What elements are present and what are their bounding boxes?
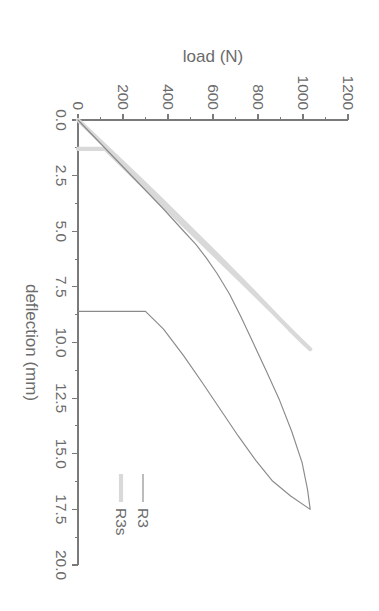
deflection-tick-label: 20.0 [53,550,70,581]
load-tick-label: 1000 [295,76,312,111]
deflection-tick-label: 7.5 [53,276,70,298]
legend-item-r3[interactable]: R3 [135,474,152,528]
legend-item-r3s[interactable]: R3s [113,474,130,536]
load-tick-label: 400 [160,84,177,110]
legend-label-r3: R3 [135,508,152,528]
rotated-figure-wrapper: 0200400600800100012000.02.55.07.510.012.… [0,0,379,611]
deflection-tick-label: 15.0 [53,439,70,470]
load-tick-label: 600 [205,84,222,110]
deflection-tick-label: 10.0 [53,327,70,358]
deflection-tick-label: 5.0 [53,220,70,242]
legend-label-r3s: R3s [113,508,130,536]
load-tick-label: 0 [70,101,87,110]
deflection-tick-label: 12.5 [53,383,70,413]
chart-canvas: 0200400600800100012000.02.55.07.510.012.… [0,0,379,611]
load-axis-title: load (N) [183,47,243,66]
series-line-r3s [78,120,310,349]
load-tick-label: 1200 [340,76,357,111]
deflection-tick-label: 17.5 [53,494,70,524]
deflection-tick-label: 0.0 [53,109,70,131]
deflection-axis-title: deflection (mm) [22,284,41,401]
load-tick-label: 800 [250,84,267,110]
deflection-tick-label: 2.5 [53,165,70,187]
load-deflection-chart: 0200400600800100012000.02.55.07.510.012.… [0,0,379,611]
load-tick-label: 200 [115,84,132,110]
